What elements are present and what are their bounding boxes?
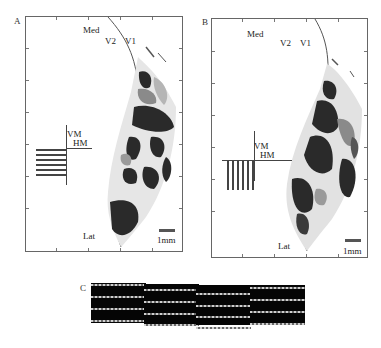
panel-a-lat-label: Lat [83,231,95,241]
panel-b-label: B [202,17,208,27]
panel-a-horizontal-grating-stimulus [36,148,66,176]
panel-b-med-label: Med [247,29,264,39]
panel-a-label: A [14,16,21,26]
panel-c-stimulus-block-1 [91,283,146,323]
panel-a-v1-activity-map [26,17,184,253]
top-caption-fragment: ··· ··· ··· ··· ·· ····· · [215,0,298,4]
panel-b-vm-axis [254,131,255,181]
panel-b-scale-bar [345,239,361,242]
panel-a-scale-label: 1mm [157,235,176,245]
panel-b-v1-label: V1 [300,38,311,48]
panel-a-scale-bar [159,229,175,232]
panel-b-vertical-grating-stimulus [226,160,254,190]
panel-b-frame: Med V2 V1 VM HM Lat 1mm [211,18,368,258]
panel-b-hm-label: HM [260,150,275,160]
panel-a-v1-label: V1 [125,36,136,46]
panel-c-stimulus-block-4 [250,285,305,325]
panel-c-stimulus-block-3 [196,285,251,325]
panel-a-hm-axis [66,148,92,149]
panel-b-scale-label: 1mm [343,246,362,256]
panel-b-lat-label: Lat [278,241,290,251]
panel-a-v2-label: V2 [105,36,116,46]
panel-a-med-label: Med [83,25,100,35]
panel-b-v2-label: V2 [280,38,291,48]
panel-a-hm-label: HM [73,138,88,148]
panel-a-frame: Med V2 V1 VM HM Lat 1mm [25,16,183,252]
panel-c-label: C [80,283,86,293]
panel-b-v1-activity-map [212,19,369,259]
panel-c-stimulus-block-2 [144,284,199,324]
